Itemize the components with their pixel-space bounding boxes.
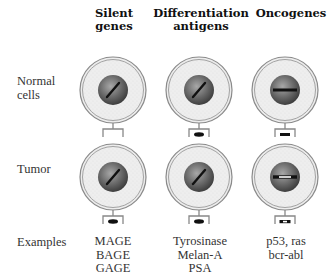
antigen-peptide-icon xyxy=(280,133,290,136)
gene-icon xyxy=(273,89,297,92)
antigen-peptide-icon xyxy=(108,219,118,223)
cell-normal-differentiation xyxy=(166,57,232,137)
cell-tumor-differentiation xyxy=(166,144,232,224)
mutated-antigen-peptide-icon xyxy=(280,220,291,223)
cell-normal-oncogenes xyxy=(252,57,318,137)
antigen-peptide-icon xyxy=(194,132,204,136)
cell-tumor-oncogenes xyxy=(252,144,318,224)
cell-normal-silent xyxy=(80,57,146,137)
antigen-peptide-icon xyxy=(194,219,204,223)
receptor-icon xyxy=(103,123,123,137)
mutated-gene-icon xyxy=(273,175,297,178)
cell-tumor-silent xyxy=(80,144,146,224)
cell-diagram xyxy=(0,0,335,280)
